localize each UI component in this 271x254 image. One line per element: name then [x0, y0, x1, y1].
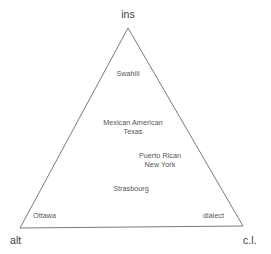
item-label-puerto-rican-new-york: Puerto Rican New York — [139, 151, 181, 169]
triangle-diagram: ins alt c.l. Swahili Mexican American Te… — [0, 0, 271, 254]
item-label-dialect: dialect — [203, 211, 224, 220]
item-line-strasbourg: Strasbourg — [113, 184, 149, 193]
item-label-ottawa: Ottawa — [33, 211, 56, 220]
corner-label-top: ins — [121, 8, 135, 20]
item-label-strasbourg: Strasbourg — [113, 184, 149, 193]
item-label-swahili: Swahili — [116, 69, 139, 78]
corner-label-bottom-right: c.l. — [243, 234, 257, 246]
corner-label-bottom-left: alt — [10, 234, 21, 246]
item-line-new-york: New York — [139, 160, 181, 169]
item-line-texas: Texas — [103, 127, 163, 136]
item-line-dialect: dialect — [203, 211, 224, 220]
item-line-mexican-american: Mexican American — [103, 118, 163, 127]
item-label-mexican-american-texas: Mexican American Texas — [103, 118, 163, 136]
item-line-ottawa: Ottawa — [33, 211, 56, 220]
item-line-swahili: Swahili — [116, 69, 139, 78]
item-line-puerto-rican: Puerto Rican — [139, 151, 181, 160]
